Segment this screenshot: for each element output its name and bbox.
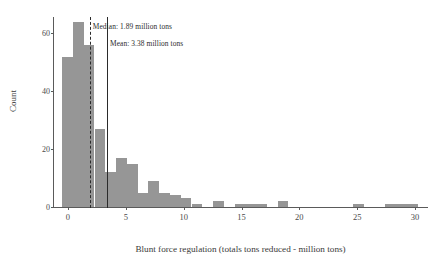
x-tick-mark <box>299 207 300 210</box>
y-tick-label: 20 <box>42 145 50 154</box>
y-tick-mark <box>51 33 54 34</box>
y-tick-label: 40 <box>42 87 50 96</box>
x-tick-label: 5 <box>124 212 128 222</box>
histogram-bar <box>192 204 203 207</box>
histogram-bar <box>213 201 224 207</box>
x-tick-label: 30 <box>411 212 420 222</box>
x-tick-mark <box>415 207 416 210</box>
histogram-bar <box>159 193 170 207</box>
x-tick-mark <box>242 207 243 210</box>
histogram-bar <box>353 204 364 207</box>
histogram-bar <box>116 158 127 207</box>
x-tick-mark <box>357 207 358 210</box>
x-tick-label: 0 <box>66 212 70 222</box>
histogram-bar <box>62 57 73 207</box>
x-tick-label: 15 <box>237 212 246 222</box>
histogram-bar <box>148 181 159 207</box>
y-tick-mark <box>51 207 54 208</box>
x-axis-title: Blunt force regulation (totals tons redu… <box>53 244 428 254</box>
histogram-figure: 0204060 051015202530 Median: 1.89 millio… <box>0 0 438 268</box>
y-axis-title: Count <box>8 90 18 112</box>
histogram-bar <box>385 204 396 207</box>
median-reference-line <box>90 17 91 208</box>
histogram-bar <box>245 204 256 207</box>
histogram-bar <box>181 198 192 207</box>
histogram-bar <box>278 201 289 207</box>
median-annotation-label: Median: 1.89 million tons <box>93 22 172 31</box>
y-tick-label: 0 <box>46 203 50 212</box>
y-tick-mark <box>51 91 54 92</box>
histogram-bar <box>256 204 267 207</box>
histogram-bar <box>170 195 181 207</box>
histogram-bar <box>235 204 246 207</box>
x-tick-mark <box>126 207 127 210</box>
mean-reference-line <box>107 17 108 208</box>
x-tick-label: 25 <box>353 212 362 222</box>
y-tick-label: 60 <box>42 29 50 38</box>
x-tick-mark <box>184 207 185 210</box>
mean-annotation-label: Mean: 3.38 million tons <box>110 39 183 48</box>
histogram-bar <box>396 204 407 207</box>
histogram-bar <box>127 164 138 207</box>
x-tick-mark <box>68 207 69 210</box>
histogram-bar <box>95 129 106 207</box>
y-tick-mark <box>51 149 54 150</box>
histogram-bar <box>73 22 84 207</box>
x-tick-label: 20 <box>295 212 304 222</box>
x-tick-label: 10 <box>179 212 188 222</box>
histogram-bar <box>138 193 149 207</box>
